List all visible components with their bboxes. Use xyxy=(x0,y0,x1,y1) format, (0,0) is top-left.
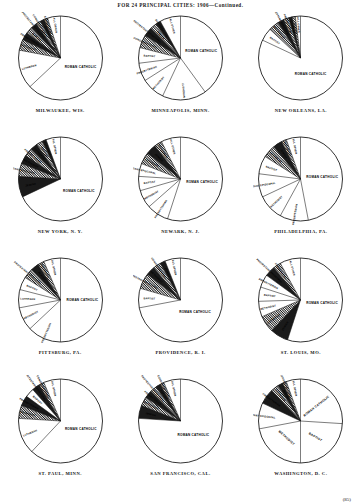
pie-chart: ROMAN CATHOLICBAPTISTMETHODISTPROTESTANT… xyxy=(253,12,348,107)
pie-slice-label: ROMAN CATHOLIC xyxy=(65,427,97,431)
page-number: (85) xyxy=(343,497,351,502)
pie-chart: ROMAN CATHOLICJEWISHLUTHERANMETHODISTBAP… xyxy=(253,254,348,349)
chart-city-caption: MINNEAPOLIS, MINN. xyxy=(151,108,209,113)
pie-slice-label: ROMAN CATHOLIC xyxy=(185,49,217,53)
pie-chart: ROMAN CATHOLICJEWISHPROTESTANT EPISCOPAL… xyxy=(13,133,108,228)
chart-city-caption: WASHINGTON, D. C. xyxy=(274,471,327,476)
pie-slice-label: ROMAN CATHOLIC xyxy=(295,72,327,76)
charts-grid: ROMAN CATHOLICLUTHERANMETHODISTPRESBYTER… xyxy=(0,8,361,494)
pie-slice-label: BAPTIST xyxy=(143,296,155,301)
pie-slice-label: ROMAN CATHOLIC xyxy=(63,189,95,193)
pie-chart: ROMAN CATHOLICBAPTISTMETHODISTPROTESTANT… xyxy=(253,375,348,470)
pie-chart: ROMAN CATHOLICLUTHERANMETHODISTPRESBYTER… xyxy=(133,12,228,107)
pie-slice-label: ROMAN CATHOLIC xyxy=(307,175,339,179)
chart-city-caption: ST. LOUIS, MO. xyxy=(281,350,321,355)
pie-slice-label: ROMAN CATHOLIC xyxy=(186,180,218,184)
pie-chart: ROMAN CATHOLICLUTHERANMETHODISTPRESBYTER… xyxy=(13,12,108,107)
pie-slice-label: BAPTIST xyxy=(143,54,155,59)
chart-city-caption: MILWAUKEE, WIS. xyxy=(36,108,85,113)
chart-cell: ROMAN CATHOLICJEWISHPROTESTANT EPISCOPAL… xyxy=(0,131,120,252)
pie-slice-label: ROMAN CATHOLIC xyxy=(306,301,338,305)
pie-slice-label: ROMAN CATHOLIC xyxy=(66,298,98,302)
pie-chart: ROMAN CATHOLICPRESBYTERIANMETHODISTBAPTI… xyxy=(133,133,228,228)
pie-chart: ROMAN CATHOLICLUTHERANMETHODISTPRESBYTER… xyxy=(13,375,108,470)
chart-cell: ROMAN CATHOLICBAPTISTMETHODISTPROTESTANT… xyxy=(241,10,361,131)
chart-city-caption: PITTSBURG, PA. xyxy=(39,350,82,355)
chart-cell: ROMAN CATHOLICLUTHERANMETHODISTPRESBYTER… xyxy=(120,10,240,131)
chart-city-caption: PHILADELPHIA, PA. xyxy=(274,229,327,234)
pie-slice-label: LUTHERAN xyxy=(20,297,35,301)
chart-cell: ROMAN CATHOLICLUTHERANMETHODISTPRESBYTER… xyxy=(0,10,120,131)
pie-chart: ROMAN CATHOLICPRESBYTERIANMETHODISTLUTHE… xyxy=(13,254,108,349)
chart-cell: ROMAN CATHOLICJEWISHMETHODISTPRESBYTERIA… xyxy=(120,373,240,494)
chart-city-caption: NEW YORK, N. Y. xyxy=(38,229,83,234)
chart-city-caption: PROVIDENCE, R. I. xyxy=(155,350,205,355)
chart-cell: ROMAN CATHOLICBAPTISTMETHODISTPROTESTANT… xyxy=(241,373,361,494)
chart-cell: ROMAN CATHOLICPRESBYTERIANMETHODISTBAPTI… xyxy=(120,131,240,252)
pie-slice-label: ROMAN CATHOLIC xyxy=(178,433,210,437)
chart-cell: ROMAN CATHOLICPRESBYTERIANMETHODISTLUTHE… xyxy=(0,252,120,373)
pie-chart: ROMAN CATHOLICJEWISHMETHODISTPRESBYTERIA… xyxy=(133,375,228,470)
pie-chart: ROMAN CATHOLICPRESBYTERIANMETHODISTPROTE… xyxy=(253,133,348,228)
chart-cell: ROMAN CATHOLICPRESBYTERIANMETHODISTPROTE… xyxy=(241,131,361,252)
chart-cell: ROMAN CATHOLICLUTHERANMETHODISTPRESBYTER… xyxy=(0,373,120,494)
chart-city-caption: NEWARK, N. J. xyxy=(161,229,200,234)
pie-slice-label: ROMAN CATHOLIC xyxy=(64,65,96,69)
chart-city-caption: SAN FRANCISCO, CAL. xyxy=(150,471,210,476)
page-header-title: FOR 24 PRINCIPAL CITIES: 1906—Continued. xyxy=(0,0,361,8)
pie-slice-label: ROMAN CATHOLIC xyxy=(179,310,211,314)
chart-city-caption: NEW ORLEANS, LA. xyxy=(275,108,327,113)
chart-cell: ROMAN CATHOLICBAPTISTPROTESTANT EPISCOPA… xyxy=(120,252,240,373)
chart-cell: ROMAN CATHOLICJEWISHLUTHERANMETHODISTBAP… xyxy=(241,252,361,373)
pie-chart: ROMAN CATHOLICBAPTISTPROTESTANT EPISCOPA… xyxy=(133,254,228,349)
chart-city-caption: ST. PAUL, MINN. xyxy=(38,471,81,476)
